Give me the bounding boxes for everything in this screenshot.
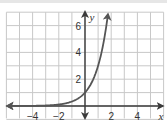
- x-tick-label: −4: [27, 111, 39, 122]
- x-axis-label: x: [158, 110, 164, 122]
- x-tick-label: −2: [53, 111, 65, 122]
- y-tick-label: 4: [75, 47, 81, 58]
- exponential-graph: −4−224246xy: [0, 0, 167, 124]
- x-tick-label: 2: [108, 111, 114, 122]
- axes: [7, 12, 162, 118]
- x-tick-label: 4: [135, 111, 141, 122]
- y-tick-label: 6: [75, 21, 81, 32]
- y-tick-label: 2: [75, 74, 81, 85]
- y-axis-label: y: [89, 11, 95, 23]
